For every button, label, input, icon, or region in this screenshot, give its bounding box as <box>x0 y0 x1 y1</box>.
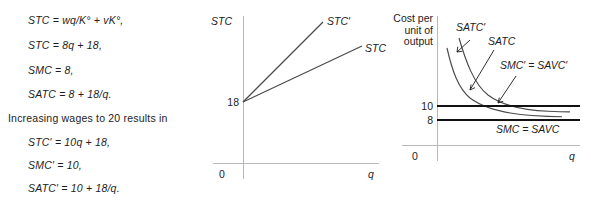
satc-curve <box>459 38 570 112</box>
stc-curve-label: STC <box>365 42 386 54</box>
equation-intro-text: Increasing wages to 20 results in <box>8 112 168 124</box>
stc-prime-curve-label: STC′ <box>327 15 350 27</box>
equation-line: STC = wq/K° + vK°, <box>28 14 123 26</box>
satc-curve-label: SATC <box>488 35 515 47</box>
satc-prime-arrow <box>457 40 470 52</box>
smc-prime-savc-prime-curve-label: SMC′ = SAVC′ <box>500 59 567 71</box>
figure-container: STC = wq/K° + vK°, STC = 8q + 18, SMC = … <box>0 0 591 204</box>
cost-chart: Cost per unit of output q 0 10 8 <box>390 0 591 204</box>
equation-block: STC = wq/K° + vK°, STC = 8q + 18, SMC = … <box>0 0 205 204</box>
cost-curves <box>390 0 591 204</box>
equation-line: STC = 8q + 18, <box>28 39 102 51</box>
equation-line: SATC′ = 10 + 18/q. <box>28 182 120 194</box>
smc-savc-curve-label: SMC = SAVC <box>496 123 559 135</box>
stc-chart: STC q 0 18 STC′ STC <box>205 0 390 204</box>
stc-curves <box>205 0 390 204</box>
satc-prime-curve-label: SATC′ <box>456 21 485 33</box>
equation-line: SATC = 8 + 18/q. <box>28 88 112 100</box>
equation-line: STC′ = 10q + 18, <box>28 136 110 148</box>
smc-prime-arrow <box>498 76 516 103</box>
equation-line: SMC = 8, <box>28 64 74 76</box>
stc-prime-line <box>243 22 323 102</box>
satc-arrow <box>470 50 494 90</box>
stc-line <box>243 46 362 102</box>
equation-line: SMC′ = 10, <box>28 159 82 171</box>
